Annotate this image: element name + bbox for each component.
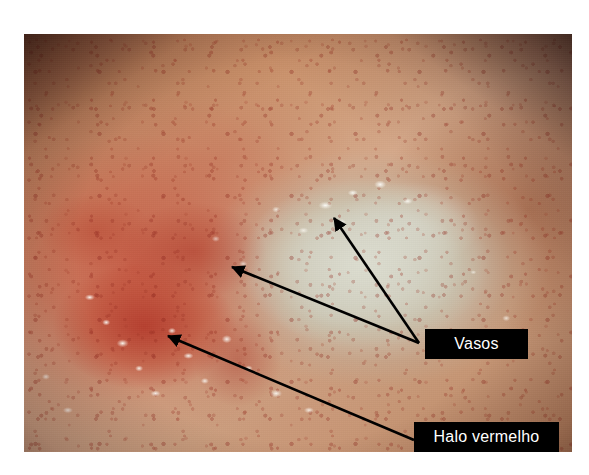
red-halo-layer — [24, 34, 572, 452]
film-grain-layer — [24, 34, 572, 452]
figure-root: Vasos Halo vermelho — [0, 0, 589, 475]
label-vasos: Vasos — [425, 329, 528, 359]
vascular-speckle-layer — [24, 34, 572, 452]
label-vasos-text: Vasos — [454, 336, 498, 352]
endoscopic-photograph — [24, 34, 572, 452]
specular-highlight-layer — [24, 34, 572, 452]
label-halo-vermelho: Halo vermelho — [414, 422, 559, 452]
tissue-base-layer — [24, 34, 572, 452]
label-halo-vermelho-text: Halo vermelho — [434, 429, 540, 445]
ulcer-crater-layer — [24, 34, 572, 452]
vignette-layer — [24, 34, 572, 452]
